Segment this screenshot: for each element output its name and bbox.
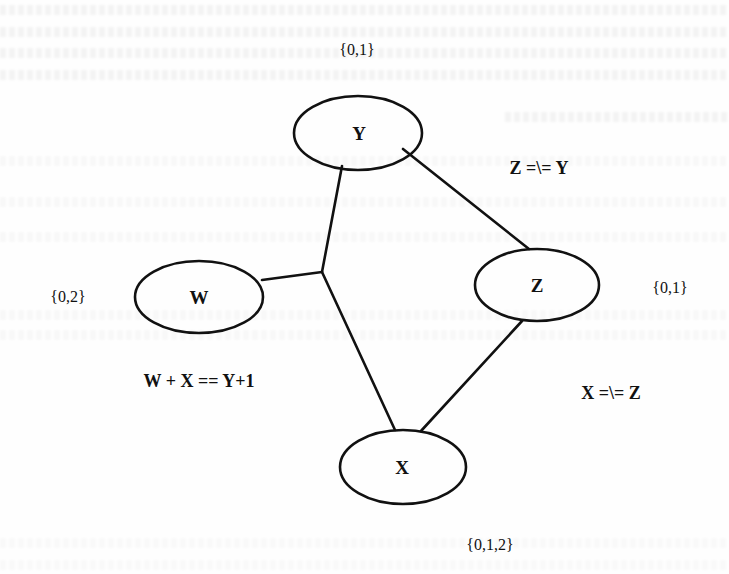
graph-drawing bbox=[0, 0, 729, 574]
domain-x-label: {0,1,2} bbox=[466, 536, 513, 554]
node-y-label: Y bbox=[352, 123, 366, 145]
edge-hub-y bbox=[322, 166, 342, 272]
node-x-label: X bbox=[395, 457, 409, 479]
domain-w-label: {0,2} bbox=[50, 288, 85, 306]
constraint-x-z-label: X =\= Z bbox=[581, 383, 641, 404]
constraint-w-x-y-label: W + X == Y+1 bbox=[143, 371, 254, 392]
node-w-label: W bbox=[190, 287, 209, 309]
diagram-canvas: Y W Z X {0,1} {0,2} {0,1} {0,1,2} W + X … bbox=[0, 0, 729, 574]
node-z-label: Z bbox=[531, 275, 544, 297]
edge-hub-w bbox=[262, 272, 322, 280]
domain-y-label: {0,1} bbox=[339, 41, 374, 59]
edge-z-x bbox=[421, 321, 522, 431]
constraint-z-y-label: Z =\= Y bbox=[510, 158, 569, 179]
edge-hub-x bbox=[322, 272, 395, 430]
domain-z-label: {0,1} bbox=[652, 279, 687, 297]
